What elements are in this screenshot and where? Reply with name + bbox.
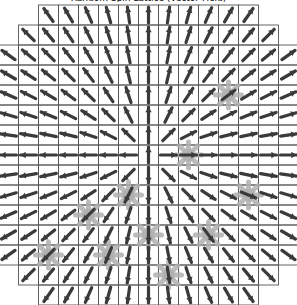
spin-arrow [201,173,216,179]
spin-arrow [64,249,74,261]
spin-arrow [21,152,37,158]
spin-arrow [1,131,17,137]
spin-arrow [186,267,192,282]
spin-arrow [61,191,75,199]
spin-arrow [103,109,114,120]
spin-arrow [84,268,92,282]
spin-arrow [241,172,257,178]
spin-arrow [281,212,296,219]
spin-arrow [221,152,237,158]
spin-arrow [201,131,216,137]
spin-arrow [104,228,112,242]
spin-arrow [82,191,95,200]
spin-arrow [125,47,131,63]
spin-arrow [64,288,72,302]
spin-arrow [145,127,151,143]
spin-arrow [205,268,213,282]
spin-arrow [166,27,172,43]
spin-arrow [223,229,234,240]
spin-arrow [203,89,214,100]
spin-arrow [145,267,151,283]
spin-arrow [166,227,172,243]
spin-arrow [262,71,275,80]
spin-arrow [166,287,172,303]
spin-arrow [205,288,212,303]
spin-arrow [262,231,275,240]
spin-arrow [105,48,112,63]
spin-arrow [281,111,296,117]
spin-arrow [21,172,37,178]
spin-arrow [105,287,111,302]
spin-arrow [105,7,111,22]
spin-arrow [204,69,214,82]
spin-arrow [64,268,73,281]
spin-arrow [41,111,56,118]
spin-arrow [186,287,192,302]
spin-arrow [224,49,234,61]
spin-arrow [185,68,193,82]
spin-arrow [184,208,193,221]
spin-arrow [125,87,131,102]
spin-arrow [145,287,151,303]
spin-arrow [185,228,193,242]
spin-arrow [221,131,237,137]
spin-arrow [244,9,253,22]
spin-arrow [241,131,257,137]
spin-arrow [21,131,37,137]
spin-arrow [42,91,56,99]
spin-arrow [101,152,117,158]
spin-arrow [123,169,134,180]
spin-arrow [281,131,297,137]
spin-arrow [41,172,57,178]
spin-arrow [44,9,53,22]
spin-arrow [1,152,17,158]
spin-arrow [2,71,16,79]
spin-arrow [282,71,296,79]
figure-canvas: Random Spin Lattice (Vector Field) [0,0,297,305]
spin-arrow [224,249,234,261]
spin-arrow [145,247,151,263]
spin-arrow [241,111,256,118]
spin-arrow [125,67,131,83]
spin-arrow [42,70,54,80]
spin-arrow [145,87,151,103]
spin-arrow [42,211,56,219]
spin-arrow [101,171,115,179]
spin-arrow [262,250,274,260]
spin-arrow [1,111,16,117]
spin-arrow [261,211,275,219]
spin-arrow [84,48,92,62]
spin-arrow [145,187,151,203]
spin-arrow [183,189,194,200]
spin-arrow [186,7,192,22]
spin-arrow [81,152,97,158]
spin-arrow [145,27,151,43]
spin-arrow [125,267,131,283]
spin-arrow [166,207,172,222]
spin-arrow [42,230,54,240]
spin-arrow [166,7,172,23]
spin-arrow [205,28,213,42]
spin-arrow [84,248,92,262]
spin-arrow [184,88,193,101]
spin-arrow [21,91,35,99]
spin-arrow [261,152,277,158]
spin-arrow [125,247,131,263]
spin-arrow [223,69,234,80]
spin-arrow [186,48,193,63]
spin-arrow [64,28,73,41]
spin-arrow [263,269,274,280]
spin-arrow [121,152,137,158]
spin-arrow [224,268,233,281]
spin-arrow [163,169,174,180]
spin-arrow [81,131,96,137]
spin-arrow [281,172,297,178]
spin-arrow [262,50,274,60]
spin-arrow [1,193,16,199]
spin-arrow [22,231,35,240]
spin-arrow [181,171,195,179]
vector-field-plot [0,0,297,305]
spin-arrow [63,229,74,240]
spin-arrow [261,131,277,137]
spin-arrow [61,131,77,137]
